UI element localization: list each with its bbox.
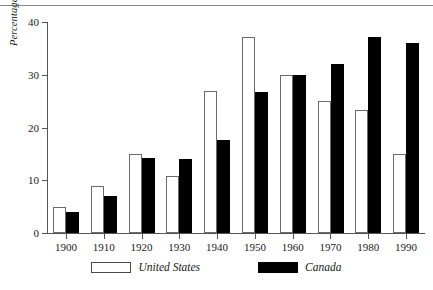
- bar-group: [204, 18, 230, 233]
- legend-label-canada: Canada: [305, 262, 341, 274]
- bar-chart-figure: Percentage of nonagricultural workers 01…: [0, 0, 433, 290]
- bar-canada: [179, 159, 192, 233]
- legend-label-united-states: United States: [138, 262, 200, 274]
- bar-united-states: [53, 207, 66, 233]
- bar-canada: [331, 64, 344, 233]
- y-axis-tick-label: 30: [28, 69, 39, 80]
- x-axis-tick-mark: [179, 233, 180, 239]
- x-axis-tick-mark: [104, 233, 105, 239]
- y-axis-tick-mark: [42, 233, 48, 234]
- bar-canada: [217, 140, 230, 233]
- bar-group: [393, 18, 419, 233]
- bar-group: [91, 18, 117, 233]
- bar-united-states: [129, 154, 142, 233]
- top-divider-rule: [0, 5, 433, 6]
- x-axis-tick-mark: [368, 233, 369, 239]
- y-axis-title-container: Percentage of nonagricultural workers: [10, 18, 26, 233]
- legend-item-united-states: United States: [91, 262, 200, 274]
- bar-group: [280, 18, 306, 233]
- bar-canada: [406, 43, 419, 233]
- y-axis-tick-mark: [42, 22, 48, 23]
- x-axis-tick-mark: [255, 233, 256, 239]
- y-axis-tick-label: 20: [28, 122, 39, 133]
- bar-group: [53, 18, 79, 233]
- y-axis-title: Percentage of nonagricultural workers: [8, 0, 19, 46]
- bar-canada: [255, 92, 268, 233]
- x-axis-tick-mark: [293, 233, 294, 239]
- bar-canada: [293, 75, 306, 233]
- bar-united-states: [91, 186, 104, 233]
- bar-canada: [104, 196, 117, 233]
- x-axis-tick-mark: [330, 233, 331, 239]
- bar-group: [129, 18, 155, 233]
- y-axis-tick-mark: [42, 180, 48, 181]
- x-axis-tick-mark: [217, 233, 218, 239]
- bar-canada: [142, 158, 155, 233]
- bar-united-states: [393, 154, 406, 233]
- legend-item-canada: Canada: [258, 262, 341, 274]
- x-axis-tick-mark: [406, 233, 407, 239]
- y-axis-tick-label: 40: [28, 17, 39, 28]
- bar-united-states: [166, 176, 179, 233]
- bar-group: [166, 18, 192, 233]
- y-axis-tick-label: 0: [34, 228, 40, 239]
- bar-group: [318, 18, 344, 233]
- bar-canada: [368, 37, 381, 233]
- chart-legend: United States Canada: [0, 262, 433, 274]
- white-square-swatch-icon: [91, 262, 131, 273]
- plot-area: 010203040 190019101920193019401950196019…: [47, 18, 425, 233]
- bar-united-states: [355, 110, 368, 233]
- bar-group: [355, 18, 381, 233]
- y-axis-tick-label: 10: [28, 175, 39, 186]
- x-axis-tick-mark: [66, 233, 67, 239]
- bar-united-states: [280, 75, 293, 233]
- bar-group: [242, 18, 268, 233]
- x-axis-tick-mark: [142, 233, 143, 239]
- y-axis-tick-mark: [42, 75, 48, 76]
- x-axis-tick-label: 1990: [381, 242, 431, 253]
- bar-united-states: [318, 101, 331, 233]
- black-square-swatch-icon: [258, 262, 298, 273]
- y-axis-tick-mark: [42, 128, 48, 129]
- bar-united-states: [204, 91, 217, 233]
- bar-united-states: [242, 37, 255, 233]
- bar-canada: [66, 212, 79, 233]
